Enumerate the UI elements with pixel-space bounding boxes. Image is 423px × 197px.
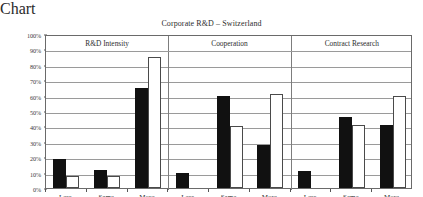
bar-black [135,88,148,188]
y-axis-tick-label: 80% [7,62,41,69]
bar-black [217,96,230,188]
x-axis-tick-mark [86,189,87,192]
bar-black [339,117,352,188]
bar-white [148,57,161,188]
x-axis-tick-mark [127,189,128,192]
bar-white [66,176,79,188]
x-axis-tick-mark [208,189,209,192]
chart-figure: Corporate R&D – Switzerland 0%10%20%30%4… [0,18,423,197]
x-axis-tick-label: Same [221,193,237,197]
x-axis-tick-label: Less [304,193,317,197]
x-axis-tick-label: Less [59,193,72,197]
x-axis-tick-mark [167,189,168,192]
bar-black [298,171,311,188]
x-axis-tick-mark [249,189,250,192]
bar-black [94,170,107,188]
y-axis-tick-label: 20% [7,155,41,162]
x-axis: LessSameMoreLessSameMoreLessSameMore [45,189,412,197]
bar-white [107,176,120,188]
x-axis-tick-label: More [139,193,154,197]
chart-title: Corporate R&D – Switzerland [0,19,423,28]
y-axis: 0%10%20%30%40%50%60%70%80%90%100% [8,35,44,189]
y-axis-tick-label: 40% [7,124,41,131]
x-axis-tick-label: Less [181,193,194,197]
x-axis-tick-label: Same [98,193,114,197]
bars-layer [46,36,411,188]
x-axis-tick-label: More [384,193,399,197]
bar-white [230,126,243,188]
bar-white [270,94,283,188]
x-axis-tick-mark [371,189,372,192]
bar-black [53,159,66,188]
y-axis-tick-label: 0% [7,186,41,193]
bar-black [380,125,393,188]
x-axis-tick-mark [290,189,291,192]
x-axis-tick-mark [45,189,46,192]
y-axis-tick-label: 60% [7,93,41,100]
x-axis-tick-label: More [262,193,277,197]
x-axis-tick-label: Same [343,193,359,197]
plot-area: R&D IntensityCooperationContract Researc… [45,35,412,189]
bar-white [352,125,365,188]
y-axis-tick-label: 90% [7,47,41,54]
y-axis-tick-label: 100% [7,32,41,39]
y-axis-tick-label: 70% [7,78,41,85]
y-axis-tick-label: 50% [7,109,41,116]
bar-black [176,173,189,188]
y-axis-tick-label: 30% [7,139,41,146]
bar-white [393,96,406,188]
bar-black [257,145,270,188]
x-axis-tick-mark [330,189,331,192]
y-axis-tick-label: 10% [7,170,41,177]
